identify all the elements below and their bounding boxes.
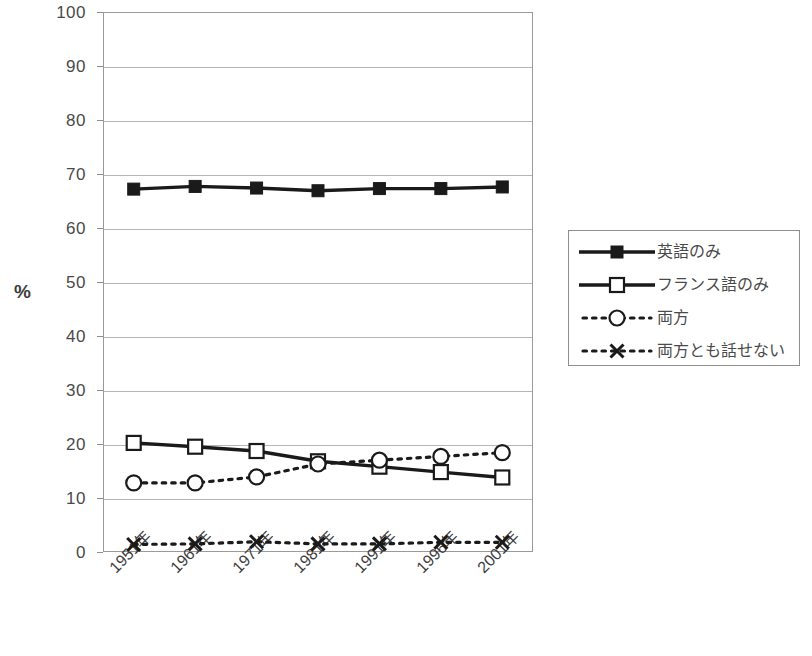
y-tick-mark	[97, 390, 103, 391]
legend-item: 両方とも話せない	[569, 334, 801, 368]
y-tick-label: 10	[40, 490, 86, 507]
y-tick-label: 80	[40, 112, 86, 129]
y-tick-label: 40	[40, 328, 86, 345]
y-tick-label: 50	[40, 274, 86, 291]
y-tick-mark	[97, 282, 103, 283]
legend-item: 英語のみ	[569, 235, 801, 269]
y-tick-mark	[97, 120, 103, 121]
legend-cross-icon	[577, 338, 657, 364]
legend-open-square-icon	[577, 272, 657, 298]
legend-item-label: フランス語のみ	[657, 276, 769, 294]
gridline	[104, 337, 532, 338]
y-tick-label: 20	[40, 436, 86, 453]
y-tick-mark	[97, 12, 103, 13]
y-tick-label: 30	[40, 382, 86, 399]
line-chart: 1009080706050403020100 % 1951年1961年1971年…	[0, 0, 812, 656]
gridline	[104, 391, 532, 392]
gridline	[104, 229, 532, 230]
gridline	[104, 175, 532, 176]
y-tick-label: 60	[40, 220, 86, 237]
plot-area	[103, 12, 533, 552]
legend-item: 両方	[569, 301, 801, 335]
y-tick-mark	[97, 444, 103, 445]
legend-item-label: 両方とも話せない	[657, 342, 785, 360]
legend: 英語のみフランス語のみ両方両方とも話せない	[568, 230, 800, 366]
y-tick-label: 70	[40, 166, 86, 183]
y-tick-label: 0	[40, 544, 86, 561]
y-tick-mark	[97, 66, 103, 67]
gridline	[104, 67, 532, 68]
legend-item-label: 両方	[657, 309, 689, 327]
y-tick-mark	[97, 498, 103, 499]
y-axis-title: %	[14, 281, 31, 303]
gridline	[104, 499, 532, 500]
gridline	[104, 121, 532, 122]
y-tick-mark	[97, 336, 103, 337]
legend-item-label: 英語のみ	[657, 243, 721, 261]
gridline	[104, 283, 532, 284]
legend-open-circle-icon	[577, 305, 657, 331]
gridline	[104, 445, 532, 446]
y-tick-mark	[97, 552, 103, 553]
y-tick-mark	[97, 228, 103, 229]
y-tick-mark	[97, 174, 103, 175]
caption-strip	[120, 646, 590, 656]
legend-filled-square-icon	[577, 239, 657, 265]
y-tick-label: 90	[40, 58, 86, 75]
legend-item: フランス語のみ	[569, 268, 801, 302]
y-tick-label: 100	[40, 4, 86, 21]
